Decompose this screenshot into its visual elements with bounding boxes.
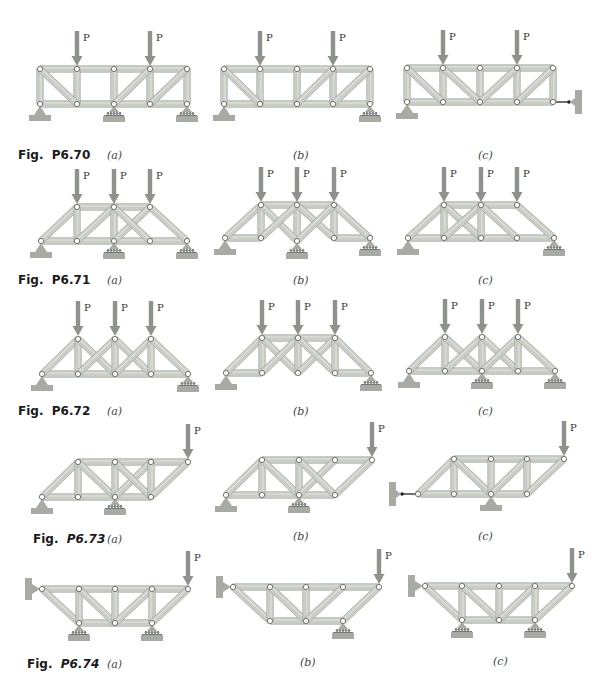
pin-joint [303,584,308,589]
ground-base [68,635,90,641]
ground-base [397,249,419,255]
pin-joint [532,583,537,588]
truss-member [452,457,493,497]
truss-member [333,458,374,498]
load-arrow-icon: P [512,167,531,202]
ground-base [31,385,53,391]
pin-support-icon [29,106,51,121]
ground-base [480,505,502,511]
pin-joint [524,456,529,461]
load-arrow-icon: P [477,299,496,334]
ground-base [359,250,381,256]
pin-joint [303,618,308,623]
load-arrow-icon: P [328,31,347,66]
load-label: P [304,301,311,312]
pin-joint [76,620,81,625]
truss-P6-74-b: P [216,549,392,639]
load-label: P [487,168,494,179]
load-arrow-icon: P [73,301,92,336]
truss-member [333,336,373,376]
truss-P6-71-b: PPP [214,167,381,259]
roller-support-icon [451,622,473,638]
pin-joint [459,583,464,588]
ground-base [215,506,237,512]
load-label: P [267,168,274,179]
pin-joint [147,101,152,106]
pin-joint [259,335,264,340]
pin-joint [296,492,301,497]
pin-joint [223,492,228,497]
truss-P6-74-a: P [25,551,201,641]
pin-joint [39,494,44,499]
truss-P6-72-c: PPP [398,299,566,389]
pin-joint [404,99,409,104]
truss-member [149,337,190,377]
truss-P6-72-a: PPP [31,301,199,392]
pin-joint [75,336,80,341]
roller-support-icon [359,240,381,256]
pin-joint [111,101,116,106]
truss-member [260,101,297,107]
pin-joint [112,620,117,625]
figure-caption: Fig. P6.71 [18,273,90,287]
caption-prefix: Fig. [18,148,52,162]
truss-P6-73-a: P [31,424,201,515]
pin-joint [332,457,337,462]
truss-P6-71-c: PPP [397,167,565,256]
load-arrow-icon: P [476,167,495,202]
pin-joint [514,65,519,70]
pin-support-icon [396,104,418,119]
truss-P6-70-a: PP [29,31,198,122]
truss-member [40,460,80,500]
load-label: P [156,170,163,181]
pin-joint [422,583,427,588]
ground-base [524,632,546,638]
load-arrow-icon: P [110,301,129,336]
pin-joint [340,618,345,623]
ground-base [176,116,198,122]
load-label: P [121,302,128,313]
subfigure-label: (c) [478,530,493,543]
roller-support-icon [544,373,566,389]
ground-base [31,508,53,514]
ground-base [360,385,382,391]
pin-joint [75,371,80,376]
caption-prefix: Fig. [18,404,52,418]
pin-joint [112,494,117,499]
pin-support-icon [213,106,235,121]
pin-joint [415,491,420,496]
subfigure-label: (b) [293,274,309,287]
pin-joint [369,457,374,462]
ground-base [176,253,198,259]
pin-support-icon [398,373,420,388]
pin-joint [479,334,484,339]
pin-joint [296,457,301,462]
pin-joint [515,368,520,373]
pin-support-icon [397,240,419,255]
truss-P6-74-c: P [408,548,585,638]
load-arrow-icon: P [145,169,164,204]
pin-joint [441,202,446,207]
ground-base [104,509,126,515]
truss-member [260,66,297,72]
pin-joint [550,99,555,104]
caption-number: P6.70 [52,148,90,162]
roller-support-icon [68,625,90,641]
pin-joint [479,368,484,373]
pin-joint [514,99,519,104]
pin-joint [148,371,153,376]
ground-base [288,507,310,513]
load-label: P [378,423,385,434]
roller-support-icon [176,243,198,259]
pin-joint [74,101,79,106]
load-label: P [339,32,346,43]
link-support-icon [555,90,582,114]
load-label: P [578,549,585,560]
truss-member [149,460,190,500]
ground-base [103,116,125,122]
truss-P6-71-a: PPP [30,169,198,259]
caption-prefix: Fig. [18,273,52,287]
ground-base [213,115,235,121]
pin-joint [330,101,335,106]
load-arrow-icon: P [512,30,531,65]
